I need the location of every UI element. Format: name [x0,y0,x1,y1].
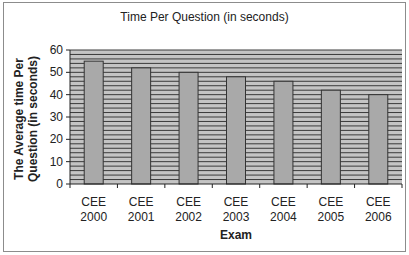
bar [274,81,293,184]
bar-chart: CEE2000CEE2001CEE2002CEE2003CEE2004CEE20… [0,0,409,255]
y-tick-label: 50 [50,65,64,79]
x-tick-label: CEE2005 [318,195,345,224]
x-tick-label: CEE2002 [175,195,202,224]
y-tick-label: 60 [50,43,64,57]
bar [132,68,151,184]
y-tick-label: 20 [50,132,64,146]
bar [321,90,340,184]
y-tick-label: 10 [50,155,64,169]
bar [227,77,246,184]
bar [84,61,103,184]
bar [369,95,388,184]
x-tick-label: CEE2000 [80,195,107,224]
x-tick-label: CEE2006 [365,195,392,224]
x-tick-label: CEE2004 [270,195,297,224]
y-tick-label: 0 [56,177,63,191]
y-tick-label: 40 [50,88,64,102]
y-tick-label: 30 [50,110,64,124]
x-tick-label: CEE2001 [128,195,155,224]
x-tick-label: CEE2003 [223,195,250,224]
bar [179,72,198,184]
